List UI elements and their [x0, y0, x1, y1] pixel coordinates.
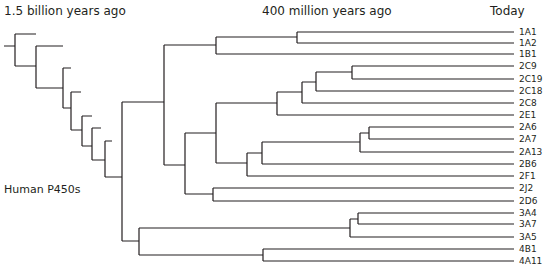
- leaf-label: 4B1: [519, 244, 537, 254]
- leaf-label: 2C19: [519, 74, 542, 84]
- leaf-label: 3A5: [519, 232, 537, 242]
- leaf-label: 2C18: [519, 86, 542, 96]
- leaf-label: 1A1: [519, 27, 537, 37]
- leaf-label: 1B1: [519, 49, 537, 59]
- leaf-label: 2C8: [519, 98, 537, 108]
- leaf-label: 2C9: [519, 61, 537, 71]
- leaf-label: 3A7: [519, 219, 537, 229]
- leaf-label: 2A13: [519, 147, 542, 157]
- leaf-label: 2J2: [519, 183, 533, 193]
- leaf-label: 3A4: [519, 208, 537, 218]
- main-tree-branches: [122, 32, 514, 261]
- leaf-label: 1A2: [519, 38, 537, 48]
- leaf-label: 2B6: [519, 159, 537, 169]
- leaf-label: 2A6: [519, 122, 537, 132]
- leaf-label: 2E1: [519, 110, 536, 120]
- leaf-label: 4A11: [519, 256, 542, 266]
- leaf-label: 2D6: [519, 196, 537, 206]
- leaf-label: 2F1: [519, 171, 536, 181]
- leaf-label: 2A7: [519, 134, 537, 144]
- ancestral-tree-schematic: [4, 34, 122, 177]
- phylogenetic-tree: [0, 0, 543, 268]
